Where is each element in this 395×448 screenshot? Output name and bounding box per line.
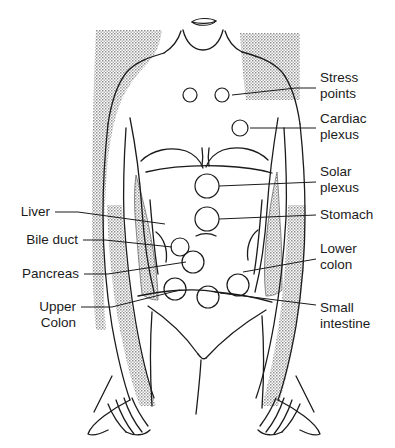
- right-shoulder-shade: [240, 33, 300, 100]
- stress-points-label-line2: points: [320, 86, 356, 101]
- right-palm-line: [258, 430, 282, 435]
- cardiac-plexus-label-line2: plexus: [320, 127, 359, 142]
- lower-colon-label: Lowercolon: [320, 241, 357, 272]
- underwear-left: [148, 306, 198, 354]
- stress-points-label: Stresspoints: [320, 70, 359, 101]
- reflex-point-circles-group: [164, 88, 249, 308]
- liver-shade-left: [135, 175, 159, 300]
- sternum-notch-right: [208, 148, 209, 166]
- small-intestine-label-line1: Small: [320, 300, 354, 315]
- solar-plexus-label-line1: Solar: [320, 164, 352, 179]
- left-thigh-outline: [151, 312, 153, 406]
- liver-shade-right: [265, 172, 283, 296]
- upper-colon-label-line2: Colon: [41, 315, 76, 330]
- underwear-crotch: [198, 354, 206, 359]
- solar-plexus-label: Solarplexus: [320, 164, 359, 195]
- bust-left-outline: [141, 149, 203, 168]
- left-palm-line: [126, 430, 150, 435]
- stress-point-left-circle[interactable]: [183, 88, 197, 102]
- lower-colon-label-line2: colon: [320, 257, 352, 272]
- solar-plexus-label-line2: plexus: [320, 180, 359, 195]
- neck-left: [164, 31, 181, 53]
- cardiac-plexus-point-circle[interactable]: [232, 120, 248, 136]
- underbust-line: [146, 166, 272, 173]
- lower-colon-point-circle[interactable]: [227, 274, 249, 296]
- stomach-label-line1: Stomach: [320, 207, 373, 222]
- liver-label-line1: Liver: [21, 204, 51, 219]
- liver-edge-curve-left: [156, 232, 167, 262]
- bile-duct-label: Bile duct: [26, 232, 78, 247]
- right-thigh-outline: [262, 316, 264, 408]
- upper-colon-label-line1: Upper: [39, 299, 76, 314]
- stress-point-right-circle[interactable]: [215, 88, 229, 102]
- label-text-group: LiverBile ductPancreasUpperColonStresspo…: [21, 70, 374, 331]
- sternum-notch-left: [202, 148, 203, 166]
- small-intestine-point-circle[interactable]: [197, 286, 219, 308]
- upper-colon-point-circle[interactable]: [164, 278, 186, 300]
- neck-right: [225, 31, 242, 52]
- stomach-label: Stomach: [320, 207, 373, 222]
- underwear-right: [206, 310, 266, 358]
- cardiac-plexus-label: Cardiacplexus: [320, 111, 367, 142]
- pancreas-label-line1: Pancreas: [22, 266, 79, 281]
- bust-right-outline: [206, 148, 268, 167]
- solar-plexus-leader-line: [219, 182, 316, 186]
- small-intestine-label-line2: intestine: [320, 316, 370, 331]
- pancreas-point-circle[interactable]: [182, 251, 204, 273]
- navel-curve: [196, 234, 216, 236]
- torso-diagram-svg: LiverBile ductPancreasUpperColonStresspo…: [0, 0, 395, 448]
- bile-duct-label-line1: Bile duct: [26, 232, 78, 247]
- chin-outline: [183, 30, 223, 50]
- stomach-point-circle[interactable]: [195, 207, 219, 231]
- liver-label: Liver: [21, 204, 51, 219]
- thigh-gap-line: [196, 360, 201, 414]
- anatomy-diagram-figure: LiverBile ductPancreasUpperColonStresspo…: [0, 0, 395, 448]
- stress-points-label-line1: Stress: [320, 70, 359, 85]
- lower-colon-label-line1: Lower: [320, 241, 357, 256]
- solar-plexus-point-circle[interactable]: [195, 174, 219, 198]
- pancreas-label: Pancreas: [22, 266, 79, 281]
- cardiac-plexus-label-line1: Cardiac: [320, 111, 367, 126]
- upper-colon-label: UpperColon: [39, 299, 76, 330]
- small-intestine-label: Smallintestine: [320, 300, 370, 331]
- left-finger-2: [116, 400, 134, 434]
